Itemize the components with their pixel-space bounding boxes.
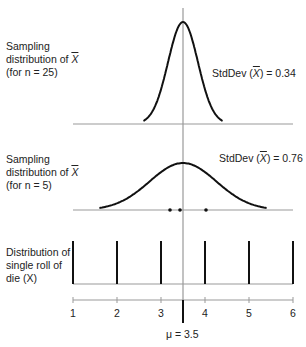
- sample-point: [178, 208, 182, 212]
- mean-label: μ = 3.5: [166, 328, 199, 341]
- tick-2: 2: [114, 307, 120, 320]
- tick-4: 4: [202, 307, 208, 320]
- tick-5: 5: [246, 307, 252, 320]
- tick-6: 6: [290, 307, 296, 320]
- label-n25: Sampling distribution of X (for n = 25): [6, 40, 78, 79]
- label-die: Distribution of single roll of die (X): [6, 246, 70, 285]
- stddev-n5: StdDev (X) = 0.76: [219, 152, 303, 165]
- tick-1: 1: [70, 307, 76, 320]
- sample-point: [168, 208, 172, 212]
- tick-3: 3: [158, 307, 164, 320]
- stddev-n25: StdDev (X) = 0.34: [212, 67, 296, 80]
- sample-point: [204, 208, 208, 212]
- label-n5: Sampling distribution of X (for n = 5): [6, 153, 78, 192]
